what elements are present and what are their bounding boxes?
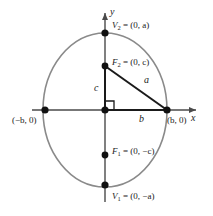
y-axis-label: y <box>110 7 114 17</box>
point-origin <box>101 106 108 113</box>
point-vertex-bottom <box>101 181 108 188</box>
ellipse-figure: y x V2 = (0, a) F2 = (0, c) F1 = (0, −c)… <box>0 0 213 216</box>
y-axis-arrow-icon <box>102 13 108 20</box>
x-axis-label: x <box>191 113 195 123</box>
focus-top-label: F2 = (0, c) <box>112 58 149 69</box>
point-focus-top <box>102 63 109 70</box>
point-focus-bottom <box>102 152 109 159</box>
covertex-right-label: (b, 0) <box>167 116 187 125</box>
focus-bottom-value: = (0, −c) <box>121 146 155 156</box>
focus-top-value: = (0, c) <box>121 57 150 67</box>
segment-b-label: b <box>139 114 144 124</box>
focus-bottom-label: F1 = (0, −c) <box>112 147 154 158</box>
point-vertex-top <box>101 29 108 36</box>
segment-a-label: a <box>144 75 149 85</box>
segment-c-label: c <box>94 83 98 93</box>
vertex-bottom-value: = (0, −a) <box>121 191 155 201</box>
point-covertex-left <box>41 106 48 113</box>
vertex-top-value: = (0, a) <box>121 20 150 30</box>
covertex-left-label: (−b, 0) <box>12 116 37 125</box>
vertex-bottom-label: V1 = (0, −a) <box>112 192 154 203</box>
figure-canvas <box>0 0 213 216</box>
vertex-top-label: V2 = (0, a) <box>112 21 149 32</box>
point-covertex-right <box>163 106 170 113</box>
